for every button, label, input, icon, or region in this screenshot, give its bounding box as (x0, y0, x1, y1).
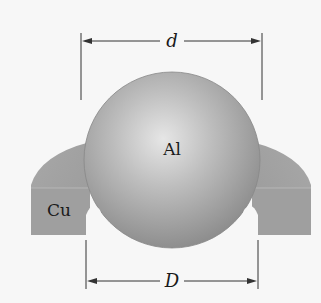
copper-ring-right (252, 142, 311, 235)
ball-on-ring-diagram: d D Al Cu (0, 0, 321, 303)
copper-ring-left (31, 142, 90, 235)
ball-diameter-label: d (166, 30, 178, 51)
ring-material-label: Cu (47, 200, 71, 220)
ring-inner-diameter-label: D (164, 270, 180, 291)
aluminum-ball (84, 72, 260, 248)
ball-material-label: Al (162, 139, 181, 159)
